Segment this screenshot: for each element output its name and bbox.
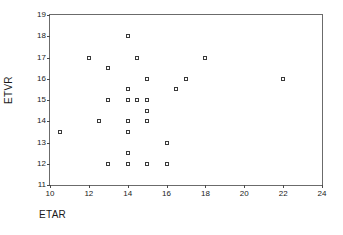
- y-tick-label: 14: [37, 117, 46, 125]
- data-point: [126, 34, 130, 38]
- data-point: [126, 130, 130, 134]
- x-tick-label: 18: [201, 190, 210, 198]
- x-tick-label: 22: [279, 190, 288, 198]
- data-point: [165, 141, 169, 145]
- data-point: [126, 151, 130, 155]
- x-tick-label: 12: [84, 190, 93, 198]
- plot-area: [50, 15, 322, 185]
- data-point: [145, 119, 149, 123]
- x-tick-mark: [283, 185, 284, 188]
- x-tick-mark: [244, 185, 245, 188]
- y-tick-mark: [47, 36, 50, 37]
- x-tick-mark: [167, 185, 168, 188]
- y-tick-label: 12: [37, 160, 46, 168]
- x-tick-label: 20: [240, 190, 249, 198]
- data-point: [184, 77, 188, 81]
- y-tick-mark: [47, 79, 50, 80]
- plot-frame: 1112131415161718191012141618202224: [49, 14, 323, 186]
- y-tick-label: 11: [38, 181, 46, 189]
- y-tick-mark: [47, 121, 50, 122]
- data-point: [126, 162, 130, 166]
- y-tick-label: 15: [37, 96, 46, 104]
- data-point: [145, 98, 149, 102]
- y-tick-mark: [47, 100, 50, 101]
- x-tick-mark: [322, 185, 323, 188]
- y-tick-label: 18: [37, 32, 46, 40]
- data-point: [97, 119, 101, 123]
- x-tick-mark: [89, 185, 90, 188]
- data-point: [87, 56, 91, 60]
- data-point: [145, 109, 149, 113]
- data-point: [145, 77, 149, 81]
- y-tick-label: 19: [37, 11, 46, 19]
- data-point: [203, 56, 207, 60]
- data-point: [106, 98, 110, 102]
- data-point: [58, 130, 62, 134]
- data-point: [126, 87, 130, 91]
- x-tick-label: 16: [162, 190, 171, 198]
- data-point: [165, 162, 169, 166]
- data-point: [126, 98, 130, 102]
- x-axis-label: ETAR: [39, 210, 66, 220]
- x-tick-label: 14: [123, 190, 132, 198]
- y-tick-label: 16: [37, 75, 46, 83]
- y-tick-mark: [47, 58, 50, 59]
- y-tick-mark: [47, 15, 50, 16]
- y-tick-mark: [47, 143, 50, 144]
- data-point: [145, 162, 149, 166]
- scatter-plot-figure: ETVR 1112131415161718191012141618202224 …: [0, 0, 343, 235]
- data-point: [106, 162, 110, 166]
- x-tick-mark: [205, 185, 206, 188]
- data-point: [135, 98, 139, 102]
- x-tick-mark: [50, 185, 51, 188]
- data-point: [126, 119, 130, 123]
- x-tick-label: 24: [318, 190, 327, 198]
- data-point: [106, 66, 110, 70]
- y-tick-mark: [47, 164, 50, 165]
- y-tick-label: 13: [37, 139, 46, 147]
- x-tick-label: 10: [46, 190, 55, 198]
- data-point: [174, 87, 178, 91]
- y-tick-label: 17: [37, 54, 46, 62]
- x-tick-mark: [128, 185, 129, 188]
- data-point: [281, 77, 285, 81]
- data-point: [135, 56, 139, 60]
- y-axis-label: ETVR: [4, 76, 14, 104]
